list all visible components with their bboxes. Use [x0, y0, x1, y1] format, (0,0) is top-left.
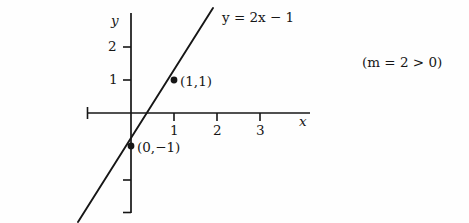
point-marker-0-neg1	[128, 143, 135, 150]
figure-canvas: y x 2 1 1 2 3 (1,1) (0,−1) y = 2x − 1 (m…	[0, 0, 469, 223]
slope-remark-label: (m = 2 > 0)	[362, 56, 442, 70]
y-tick-label-1: 1	[109, 73, 118, 87]
point-label-1-1: (1,1)	[180, 75, 212, 89]
y-axis-label: y	[111, 14, 119, 28]
x-tick-label-3: 3	[256, 124, 265, 138]
x-axis-label: x	[299, 115, 307, 129]
equation-label: y = 2x − 1	[222, 11, 294, 25]
x-tick-label-2: 2	[213, 124, 222, 138]
point-marker-1-1	[171, 77, 178, 84]
coordinate-plot	[0, 0, 469, 223]
point-label-0-neg1: (0,−1)	[137, 141, 180, 155]
y-tick-label-2: 2	[108, 40, 117, 54]
x-tick-label-1: 1	[170, 124, 179, 138]
function-line	[78, 8, 213, 222]
